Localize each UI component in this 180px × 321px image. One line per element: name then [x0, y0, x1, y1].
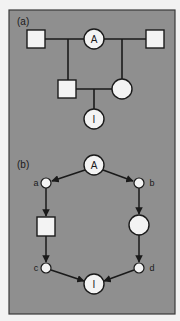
node-c: c	[34, 263, 51, 273]
top-left-male-node	[27, 30, 45, 48]
panel-b-label: (b)	[17, 159, 29, 170]
node-c-label: c	[34, 263, 39, 273]
individual-i-label-b: I	[93, 279, 96, 290]
individual-i-label: I	[93, 114, 96, 125]
panel-a-label: (a)	[17, 16, 29, 27]
node-a: a	[33, 178, 51, 188]
left-middle-square-node	[37, 217, 55, 236]
ancestor-a-node: A	[84, 29, 104, 49]
ancestor-a-node-b: A	[84, 155, 104, 175]
ancestor-a-label: A	[91, 34, 98, 45]
individual-i-node-b: I	[84, 274, 104, 294]
node-a-label: a	[33, 178, 38, 188]
right-middle-circle-node	[129, 215, 149, 235]
individual-i-node: I	[84, 109, 104, 129]
pedigree-figure: (a) A I (b)	[0, 0, 180, 321]
ancestor-a-label-b: A	[91, 160, 98, 171]
father-node	[58, 80, 76, 98]
pedigree-diagram-svg: (a) A I (b)	[0, 0, 180, 321]
top-right-male-node	[146, 30, 164, 48]
node-b-label: b	[149, 178, 154, 188]
node-d-label: d	[149, 263, 154, 273]
mother-node	[112, 79, 132, 99]
